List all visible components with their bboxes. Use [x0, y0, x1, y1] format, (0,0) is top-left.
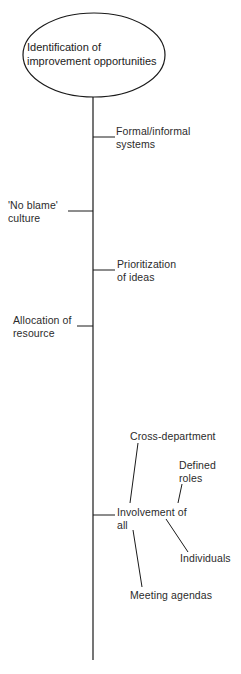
- line-cross-department: [130, 443, 138, 503]
- sub-branch-label-line1: Defined: [179, 459, 216, 472]
- line-meeting-agendas: [133, 530, 142, 587]
- branch-label-line1: Formal/informal: [116, 125, 190, 138]
- branch-label-line2: culture: [8, 212, 58, 225]
- branch-label-line1: Prioritization: [117, 258, 176, 271]
- root-label-line2: improvement opportunities: [27, 54, 157, 68]
- branch-allocation-of-resource: Allocation of resource: [13, 314, 72, 339]
- sub-branch-individuals: Individuals: [180, 552, 231, 565]
- root-label-line1: Identification of: [27, 40, 157, 54]
- branch-label-line1: Allocation of: [13, 314, 72, 327]
- branch-formal-informal-systems: Formal/informal systems: [116, 125, 190, 150]
- branch-label-line2: systems: [116, 138, 190, 151]
- branch-involvement-of-all: Involvement of all: [117, 506, 187, 531]
- sub-branch-label-line2: roles: [179, 472, 216, 485]
- branch-label-line2: all: [117, 519, 187, 532]
- branch-label-line2: resource: [13, 327, 72, 340]
- sub-branch-meeting-agendas: Meeting agendas: [130, 589, 212, 602]
- branch-label-line1: Involvement of: [117, 506, 187, 519]
- branch-no-blame-culture: 'No blame' culture: [8, 199, 58, 224]
- sub-branch-cross-department: Cross-department: [130, 430, 216, 443]
- root-node-label: Identification of improvement opportunit…: [27, 40, 157, 68]
- branch-label-line2: of ideas: [117, 271, 176, 284]
- branch-prioritization-of-ideas: Prioritization of ideas: [117, 258, 176, 283]
- sub-branch-defined-roles: Defined roles: [179, 459, 216, 484]
- branch-label-line1: 'No blame': [8, 199, 58, 212]
- line-defined-roles: [178, 484, 182, 503]
